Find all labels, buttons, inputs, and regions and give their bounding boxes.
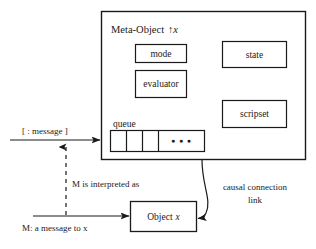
- queue-label: queue: [113, 120, 136, 130]
- queue-ellipsis: ● ● ●: [159, 131, 204, 151]
- interpreted-as-label: M is interpreted as: [72, 180, 139, 189]
- component-label-evaluator: evaluator: [135, 70, 187, 98]
- base-message-text: M: a message to x: [22, 223, 88, 233]
- meta-object-title: Meta-Object↑x: [111, 25, 178, 36]
- causal-link-label-line2: link: [212, 196, 298, 205]
- causal-link-label-line1: causal connection: [212, 183, 298, 192]
- component-label-mode: mode: [135, 44, 187, 63]
- meta-object-title-text: Meta-Object: [111, 24, 164, 35]
- base-object-label: Objectx: [130, 201, 197, 232]
- base-message-label: M: a message to x: [22, 224, 88, 233]
- component-label-scripset: scripset: [222, 100, 287, 128]
- causal-connection-arrow: [198, 160, 208, 219]
- uparrow-icon: ↑: [164, 24, 173, 35]
- base-object-label-text: Object: [147, 212, 172, 222]
- meta-object-title-var: x: [173, 24, 178, 35]
- diagram-canvas: Meta-Object↑x mode evaluator state scrip…: [0, 0, 316, 249]
- base-object-label-var: x: [173, 212, 180, 222]
- component-label-state: state: [222, 41, 287, 68]
- incoming-message-label: [ : message ]: [22, 127, 68, 136]
